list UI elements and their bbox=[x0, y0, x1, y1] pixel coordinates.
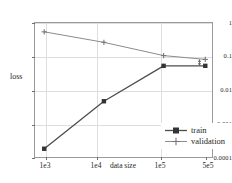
legend-item-validation[interactable]: validation bbox=[164, 136, 232, 147]
y-axis-label: loss bbox=[10, 72, 22, 81]
validation-series-line bbox=[44, 32, 205, 60]
generalization-gap-arrow-icon bbox=[198, 59, 201, 65]
x-axis-label: data size bbox=[110, 161, 136, 170]
plot-area: train validation bbox=[34, 22, 213, 158]
legend: train validation bbox=[161, 123, 232, 149]
train-legend-marker-icon bbox=[164, 125, 188, 136]
legend-label-validation: validation bbox=[188, 136, 225, 147]
x-tick-label-1e4: 1e4 bbox=[91, 161, 102, 170]
chart-figure: loss 1 0.1 0.01 0.001 0.0001 1e3 1e4 1e5… bbox=[0, 0, 232, 183]
validation-legend-marker-icon bbox=[164, 136, 188, 147]
x-tick-label-5e5: 5e5 bbox=[203, 161, 214, 170]
x-tick-label-1e3: 1e3 bbox=[40, 161, 51, 170]
legend-label-train: train bbox=[188, 125, 207, 136]
x-tick-label-1e5: 1e5 bbox=[155, 161, 166, 170]
legend-item-train[interactable]: train bbox=[164, 125, 232, 136]
